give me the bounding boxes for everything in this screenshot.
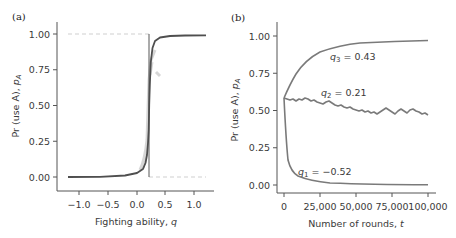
panel-a-y-ticks: 1.00 0.75 0.50 0.25 0.00 <box>29 29 57 183</box>
panel-b: (b) 1.00 0.75 0.50 0.25 0.00 0 25,000 5 <box>229 12 448 229</box>
panel-b-ytick-label: 0.75 <box>249 68 270 79</box>
panel-b-ytick-label: 0.50 <box>249 105 270 116</box>
panel-a-x-ticks: −1.0 −0.5 0.0 0.5 1.0 <box>67 191 201 210</box>
panel-a-xtick-label: −1.0 <box>67 199 90 210</box>
figure: (a) 1.00 0.75 0.50 0.25 0.00 −1.0 −0.5 <box>0 0 456 238</box>
panel-a-y-axis-title: Pr (use A), pA <box>10 74 23 137</box>
panel-b-y-axis-title: Pr (use A), pA <box>229 78 242 141</box>
panel-a: (a) 1.00 0.75 0.50 0.25 0.00 −1.0 −0.5 <box>10 11 214 227</box>
panel-a-ytick-label: 0.75 <box>29 64 50 75</box>
panel-a-x-axis-title: Fighting ability, q <box>95 216 177 227</box>
panel-b-xtick-label: 75,000 <box>375 201 408 212</box>
panel-a-ytick-label: 0.50 <box>29 100 50 111</box>
panel-b-x-ticks: 0 25,000 50,000 75,000 100,000 <box>281 193 448 212</box>
panel-a-ytick-label: 1.00 <box>29 29 50 40</box>
panel-b-ytick-label: 1.00 <box>249 31 270 42</box>
panel-b-x-axis-title: Number of rounds, t <box>308 218 405 229</box>
panel-a-xtick-label: 1.0 <box>186 199 201 210</box>
panel-a-logistic-curve <box>68 35 206 177</box>
panel-b-xtick-label: 25,000 <box>303 201 336 212</box>
panel-b-xtick-label: 0 <box>281 201 287 212</box>
panel-a-xtick-label: −0.5 <box>96 199 119 210</box>
panel-b-ytick-label: 0.00 <box>249 180 270 191</box>
panel-b-y-ticks: 1.00 0.75 0.50 0.25 0.00 <box>249 31 277 191</box>
panel-a-label: (a) <box>12 11 26 22</box>
panel-b-annotation-q3: q3 = 0.43 <box>330 51 376 64</box>
panel-b-ytick-label: 0.25 <box>249 142 270 153</box>
panel-b-curve-q2 <box>284 98 428 115</box>
panel-a-xtick-label: 0.0 <box>129 199 144 210</box>
panel-b-annotation-q1: q1 = −0.52 <box>298 166 352 179</box>
panel-b-xtick-label: 100,000 <box>408 201 447 212</box>
panel-b-annotation-q2: q2 = 0.21 <box>321 87 367 100</box>
panel-b-label: (b) <box>231 12 245 23</box>
panel-a-ytick-label: 0.00 <box>29 172 50 183</box>
panel-a-xtick-label: 0.5 <box>157 199 172 210</box>
panel-a-ytick-label: 0.25 <box>29 136 50 147</box>
panel-b-xtick-label: 50,000 <box>339 201 372 212</box>
